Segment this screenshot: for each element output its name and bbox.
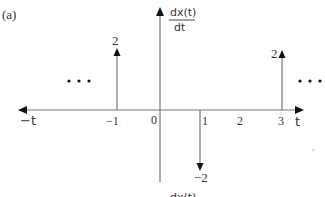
impulse-t-3: 2	[271, 46, 286, 110]
impulse-t-neg1: 2	[112, 33, 121, 110]
y-label-denominator: dt	[174, 21, 186, 34]
panel-label: (a)	[2, 7, 16, 22]
tick-label-3: 3	[278, 114, 284, 128]
y-label-numerator: dx(t)	[170, 6, 196, 19]
tick-label-2: 2	[237, 114, 243, 128]
neg-t-label: −t	[20, 113, 36, 128]
scan-artifact	[312, 149, 315, 152]
bottom-cutoff-label: dx(t)	[170, 191, 196, 197]
pos-t-label: t	[295, 114, 300, 129]
y-axis	[156, 7, 164, 182]
impulse-arrow-up-icon	[114, 48, 121, 56]
impulse-weight-label: 2	[112, 33, 119, 48]
impulse-weight-label: −2	[194, 170, 208, 185]
tick-label-1: 1	[202, 114, 208, 128]
ellipsis-right	[298, 79, 321, 82]
up-arrow-icon	[156, 7, 164, 16]
impulse-train-diagram: (a) dx(t) dt −t t −1 0 1 2 3 2 −2 2	[0, 0, 325, 197]
right-arrow-icon	[295, 106, 304, 114]
impulse-arrow-up-icon	[279, 50, 286, 58]
t-axis	[18, 106, 304, 114]
y-axis-label: dx(t) dt	[169, 6, 196, 34]
ellipsis-left	[67, 79, 90, 82]
impulse-weight-label: 2	[271, 46, 278, 61]
tick-label-neg1: −1	[106, 114, 119, 128]
tick-label-0: 0	[151, 113, 157, 127]
